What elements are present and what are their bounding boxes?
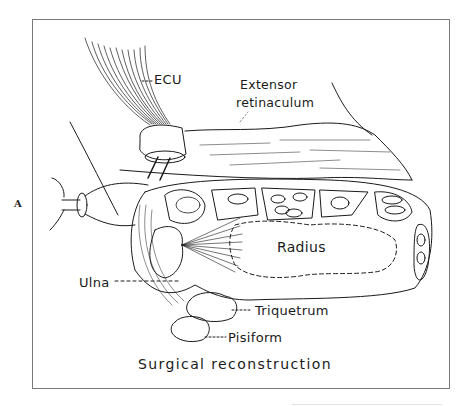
triquetrum-bone	[187, 293, 237, 322]
label-retinaculum: retinaculum	[236, 97, 314, 110]
label-ecu: ECU	[154, 73, 182, 86]
figure-caption: Surgical reconstruction	[138, 356, 332, 372]
label-radius: Radius	[277, 240, 326, 254]
extensor-compartments	[165, 188, 430, 280]
panel-letter: A	[14, 198, 22, 209]
label-pisiform: Pisiform	[228, 331, 282, 344]
wrist-cross-section-illustration	[0, 0, 467, 406]
tfcc-fibers	[182, 218, 242, 272]
label-ulna: Ulna	[79, 276, 110, 289]
label-triquetrum: Triquetrum	[255, 304, 329, 317]
label-extensor: Extensor	[240, 79, 298, 92]
divider	[292, 404, 442, 405]
